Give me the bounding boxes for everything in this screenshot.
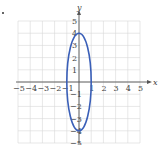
svg-text:3: 3 — [72, 41, 77, 50]
svg-text:y: y — [76, 3, 82, 12]
svg-text:5: 5 — [72, 17, 77, 26]
problem-marker — [2, 12, 4, 14]
svg-text:−2: −2 — [50, 84, 62, 93]
axes: xy — [16, 3, 158, 145]
svg-text:−2: −2 — [70, 102, 82, 111]
svg-text:2: 2 — [72, 54, 77, 63]
svg-text:5: 5 — [138, 84, 143, 93]
tick-labels: −5−4−3−2−11234554321−1−2−3−4−5 — [13, 17, 143, 145]
svg-text:−5: −5 — [13, 84, 25, 93]
svg-text:1: 1 — [72, 66, 77, 75]
svg-text:−1: −1 — [70, 90, 82, 99]
svg-text:2: 2 — [101, 84, 106, 93]
ellipse-graph: xy −5−4−3−2−11234554321−1−2−3−4−5 — [0, 0, 158, 145]
svg-text:4: 4 — [126, 84, 131, 93]
svg-text:3: 3 — [114, 84, 119, 93]
svg-text:x: x — [153, 78, 158, 87]
svg-text:−5: −5 — [70, 139, 82, 145]
svg-text:−4: −4 — [25, 84, 37, 93]
svg-text:−3: −3 — [37, 84, 49, 93]
